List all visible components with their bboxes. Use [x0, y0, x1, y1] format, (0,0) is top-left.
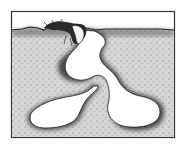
nest-illustration	[0, 0, 184, 146]
